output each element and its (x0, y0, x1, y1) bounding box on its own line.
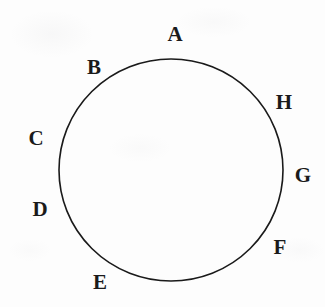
circle-diagram-svg (0, 0, 325, 307)
point-label-c: C (28, 128, 43, 149)
point-label-g: G (295, 165, 311, 186)
point-label-e: E (93, 272, 107, 293)
point-label-h: H (276, 92, 292, 113)
figure-container: A B C D E F G H (0, 0, 325, 307)
circle-outline (59, 59, 283, 281)
point-label-f: F (274, 237, 287, 258)
point-label-a: A (167, 24, 182, 45)
point-label-d: D (32, 199, 47, 220)
point-label-b: B (87, 57, 101, 78)
